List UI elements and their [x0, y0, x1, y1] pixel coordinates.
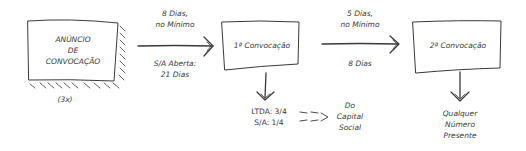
edge1-label-above: 8 Dias, no Mínimo	[140, 8, 210, 30]
second-call-label: 2ª Convocação	[414, 40, 502, 51]
announcement-repeat-note: (3x)	[50, 94, 80, 105]
announcement-label: ANÚNCIO DE CONVOCAÇÃO	[30, 34, 116, 67]
arrow-first-down	[265, 73, 266, 98]
diagram-canvas: ANÚNCIO DE CONVOCAÇÃO (3x) 8 Dias, no Mí…	[0, 0, 526, 151]
second-call-quorum: Qualquer Número Presente	[430, 108, 490, 141]
capital-social-label: Do Capital Social	[330, 100, 370, 133]
arrow-announce-to-first	[138, 46, 213, 47]
edge2-label-below: 8 Dias	[325, 58, 395, 69]
first-call-quorum: LTDA: 3/4 S/A: 1/4	[238, 106, 300, 128]
edge1-label-below: S/A Aberta: 21 Dias	[140, 58, 210, 80]
arrow-first-to-second	[322, 44, 398, 45]
edge2-label-above: 5 Dias, no Mínimo	[325, 8, 395, 30]
first-call-label: 1ª Convocação	[224, 40, 300, 51]
arrow-quorum-to-capital	[300, 112, 328, 121]
